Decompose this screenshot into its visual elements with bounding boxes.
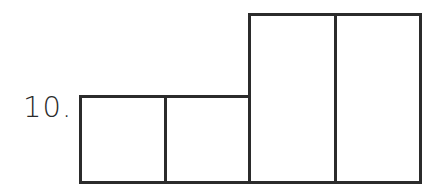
tall-rectangle-1 xyxy=(248,13,337,184)
short-rectangle-2 xyxy=(164,95,251,184)
tall-rectangle-2 xyxy=(334,13,422,184)
problem-number-label: 10. xyxy=(23,93,72,122)
short-rectangle-1 xyxy=(79,95,167,184)
